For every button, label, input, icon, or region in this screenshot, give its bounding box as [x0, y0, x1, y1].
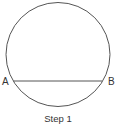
point-label-b: B — [108, 76, 115, 87]
circle — [6, 3, 110, 107]
point-label-a: A — [2, 76, 9, 87]
step-caption: Step 1 — [44, 113, 71, 124]
geometry-diagram: A B Step 1 — [0, 0, 119, 127]
